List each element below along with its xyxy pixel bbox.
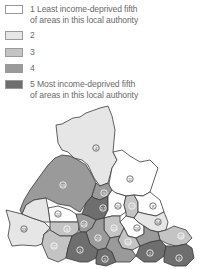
legend-swatch-2 (5, 31, 23, 40)
legend-label-3: 3 (30, 47, 35, 58)
legend-label-5: 5 Most income-deprived fifthof areas in … (30, 79, 138, 100)
legend-swatch-4 (5, 64, 23, 73)
deprivation-choropleth-map: 4 19 11 13 22 6 9 17 20 7 8 12 16 14 10 … (0, 100, 199, 269)
svg-text:15: 15 (112, 226, 117, 231)
svg-text:20: 20 (116, 204, 121, 209)
svg-text:14: 14 (156, 220, 161, 225)
svg-text:19: 19 (61, 183, 66, 188)
svg-text:12: 12 (52, 244, 57, 249)
svg-text:17: 17 (101, 206, 106, 211)
legend-label-2: 2 (30, 30, 35, 41)
map-region-11[interactable] (108, 150, 158, 196)
legend-label-1: 1 Least income-deprived fifthof areas in… (30, 4, 138, 25)
svg-text:10: 10 (126, 240, 131, 245)
legend-label-4: 4 (30, 63, 35, 74)
svg-text:22: 22 (56, 212, 61, 217)
svg-text:13: 13 (22, 227, 27, 232)
svg-text:24: 24 (82, 222, 87, 227)
svg-text:16: 16 (135, 226, 140, 231)
legend-swatch-1 (5, 5, 23, 14)
svg-text:21: 21 (96, 236, 101, 241)
svg-text:18: 18 (179, 234, 184, 239)
legend-swatch-3 (5, 48, 23, 57)
legend-swatch-5 (5, 80, 23, 89)
